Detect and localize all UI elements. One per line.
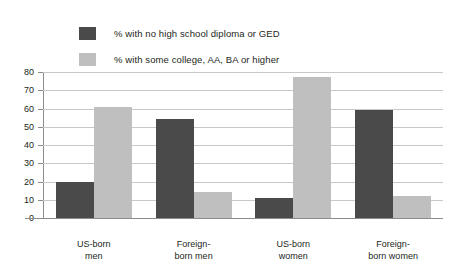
category-label-line: women xyxy=(244,250,344,262)
bar-group-3 xyxy=(244,72,344,218)
category-label-3: US-bornwomen xyxy=(244,238,344,262)
category-label-line: Foreign- xyxy=(343,238,443,250)
category-label-line: men xyxy=(44,250,144,262)
legend-item-some-college: % with some college, AA, BA or higher xyxy=(79,46,409,72)
y-tick-label-10: 10 xyxy=(10,195,34,205)
category-label-4: Foreign-born women xyxy=(343,238,443,262)
y-tick-label-80: 80 xyxy=(10,67,34,77)
bar-chart: % with no high school diploma or GED % w… xyxy=(0,0,450,272)
y-tick-label-50: 50 xyxy=(10,122,34,132)
bar-group-2 xyxy=(144,72,244,218)
category-label-2: Foreign-born men xyxy=(144,238,244,262)
bar-group-1 xyxy=(44,72,144,218)
y-tick-label-60: 60 xyxy=(10,104,34,114)
category-label-line: born men xyxy=(144,250,244,262)
legend-swatch-series-1 xyxy=(79,27,96,40)
y-tick-label-20: 20 xyxy=(10,177,34,187)
legend-label-series-1: % with no high school diploma or GED xyxy=(114,28,280,39)
bar-series-2-group-4 xyxy=(393,196,431,218)
category-label-line: US-born xyxy=(244,238,344,250)
bars-container xyxy=(44,72,443,218)
bar-series-1-group-2 xyxy=(156,119,194,218)
bar-group-4 xyxy=(343,72,443,218)
x-axis-line xyxy=(25,218,443,219)
category-label-1: US-bornmen xyxy=(44,238,144,262)
x-axis-category-labels: US-bornmenForeign-born menUS-bornwomenFo… xyxy=(44,238,443,262)
plot-area: 80706050403020100 xyxy=(0,72,450,232)
y-tick-label-30: 30 xyxy=(10,158,34,168)
category-label-line: born women xyxy=(343,250,443,262)
bar-series-2-group-2 xyxy=(194,192,232,218)
bar-series-1-group-1 xyxy=(56,182,94,219)
legend-swatch-series-2 xyxy=(79,53,96,66)
category-label-line: US-born xyxy=(44,238,144,250)
chart-legend: % with no high school diploma or GED % w… xyxy=(79,20,409,72)
y-tick-label-40: 40 xyxy=(10,140,34,150)
bar-series-1-group-3 xyxy=(255,198,293,218)
y-tick-label-70: 70 xyxy=(10,85,34,95)
legend-item-no-diploma: % with no high school diploma or GED xyxy=(79,20,409,46)
category-label-line: Foreign- xyxy=(144,238,244,250)
y-axis-tick-labels: 80706050403020100 xyxy=(10,72,34,218)
bar-series-2-group-1 xyxy=(94,107,132,218)
bar-series-1-group-4 xyxy=(355,110,393,218)
legend-label-series-2: % with some college, AA, BA or higher xyxy=(114,54,279,65)
bar-series-2-group-3 xyxy=(293,77,331,218)
